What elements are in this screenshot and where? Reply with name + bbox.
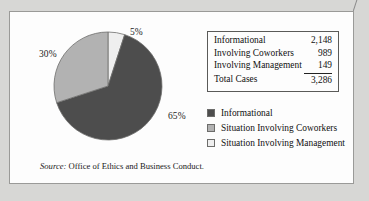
source-body: Office of Ethics and Business Conduct. [66,161,204,171]
pie-chart [53,31,163,141]
source-note: Source: Office of Ethics and Business Co… [40,161,204,171]
source-keyword: Source: [40,161,66,171]
pie-label-informational: 65% [168,111,186,121]
table-cell-value: 3,286 [304,73,332,87]
table-cell-value: 989 [304,48,332,61]
pie-label-management: 5% [130,27,143,37]
table-row: Involving Management149 [214,60,332,73]
pie-label-coworkers: 30% [39,49,57,59]
figure-container: 5% 30% 65% Informational2,148Involving C… [9,11,354,184]
table-row: Total Cases3,286 [214,73,332,87]
table-cell-value: 2,148 [304,35,332,48]
legend-swatch-icon [207,124,215,132]
legend-item: Informational [207,105,345,120]
legend-item-label: Situation Involving Management [221,138,345,148]
pie-chart-svg [53,31,163,141]
table-cell-label: Informational [214,35,304,48]
table-cell-value: 149 [304,60,332,73]
legend-item-label: Informational [221,108,273,118]
legend-item-label: Situation Involving Coworkers [221,123,337,133]
chart-legend: InformationalSituation Involving Coworke… [207,105,345,150]
table-row: Involving Coworkers989 [214,48,332,61]
table-cell-label: Involving Management [214,60,304,73]
case-counts-table-body: Informational2,148Involving Coworkers989… [214,35,332,87]
legend-swatch-icon [207,109,215,117]
table-cell-label: Involving Coworkers [214,48,304,61]
legend-item: Situation Involving Management [207,135,345,150]
table-row: Informational2,148 [214,35,332,48]
case-counts-table: Informational2,148Involving Coworkers989… [207,31,339,92]
legend-swatch-icon [207,139,215,147]
scan-artifact [353,0,363,14]
legend-item: Situation Involving Coworkers [207,120,345,135]
table-cell-label: Total Cases [214,73,304,87]
